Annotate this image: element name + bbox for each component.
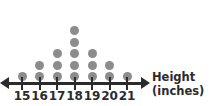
axis-arrow-left-icon	[0, 77, 9, 89]
data-dot	[53, 61, 62, 70]
dot-field	[0, 0, 150, 84]
dot-plot-figure: 15161718192021 Height (inches)	[0, 0, 215, 106]
x-axis-title: Height (inches)	[152, 70, 215, 98]
data-dot	[88, 49, 97, 58]
x-axis-tick-labels: 15161718192021	[0, 89, 150, 105]
x-axis-title-line1: Height	[152, 70, 215, 84]
axis-arrow-right-icon	[141, 77, 150, 89]
data-dot	[53, 49, 62, 58]
data-dot	[35, 61, 44, 70]
data-dot	[70, 26, 79, 35]
data-dot	[88, 61, 97, 70]
x-axis	[0, 76, 150, 90]
data-dot	[70, 61, 79, 70]
data-dot	[70, 49, 79, 58]
data-dot	[70, 38, 79, 47]
axis-tick-label: 21	[117, 89, 137, 103]
data-dot	[105, 61, 114, 70]
x-axis-title-line2: (inches)	[152, 84, 215, 98]
